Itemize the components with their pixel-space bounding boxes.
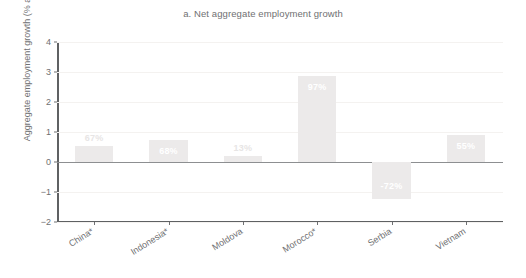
zero-baseline	[57, 162, 503, 163]
x-tick-mark	[392, 222, 393, 225]
y-tick-label: 3	[46, 67, 51, 77]
y-tick-label: 0	[46, 157, 51, 167]
bar[interactable]	[75, 146, 114, 162]
x-tick-mark	[94, 222, 95, 225]
x-tick-mark	[169, 222, 170, 225]
chart-title: a. Net aggregate employment growth	[0, 8, 526, 19]
chart-figure: a. Net aggregate employment growth Aggre…	[0, 0, 526, 278]
gridline	[57, 72, 503, 73]
gridline	[57, 102, 503, 103]
bar-value-label: 67%	[75, 133, 114, 143]
bar-value-label: -72%	[372, 181, 411, 191]
y-tick-mark	[54, 72, 57, 73]
y-tick-label: 2	[46, 97, 51, 107]
x-tick-mark	[466, 222, 467, 225]
y-axis-label: Aggregate employment growth (% annual)	[22, 0, 32, 152]
x-tick-label: Vietnam	[434, 226, 467, 252]
bar-value-label: 68%	[149, 146, 188, 156]
gridline	[57, 132, 503, 133]
y-tick-mark	[54, 132, 57, 133]
gridline	[57, 192, 503, 193]
x-tick-mark	[317, 222, 318, 225]
y-tick-mark	[54, 222, 57, 223]
x-tick-mark	[243, 222, 244, 225]
x-tick-label: Moldova	[210, 226, 244, 253]
y-tick-label: −2	[41, 217, 51, 227]
bar-value-label: 13%	[224, 143, 263, 153]
bar[interactable]	[224, 156, 263, 162]
x-tick-label: Serbia	[365, 226, 392, 248]
bar-value-label: 55%	[447, 141, 486, 151]
y-tick-mark	[54, 42, 57, 43]
gridline	[57, 222, 503, 223]
y-tick-mark	[54, 192, 57, 193]
gridline	[57, 42, 503, 43]
x-tick-label: China*	[67, 226, 95, 249]
x-tick-label: Indonesia*	[128, 226, 169, 257]
y-tick-label: 4	[46, 37, 51, 47]
y-tick-label: 1	[46, 127, 51, 137]
y-tick-label: −1	[41, 187, 51, 197]
bar-value-label: 97%	[298, 82, 337, 92]
x-tick-label: Morocco*	[281, 226, 319, 255]
plot-area: 43210−1−267%68%13%97%-72%55%	[57, 42, 503, 222]
y-tick-mark	[54, 102, 57, 103]
